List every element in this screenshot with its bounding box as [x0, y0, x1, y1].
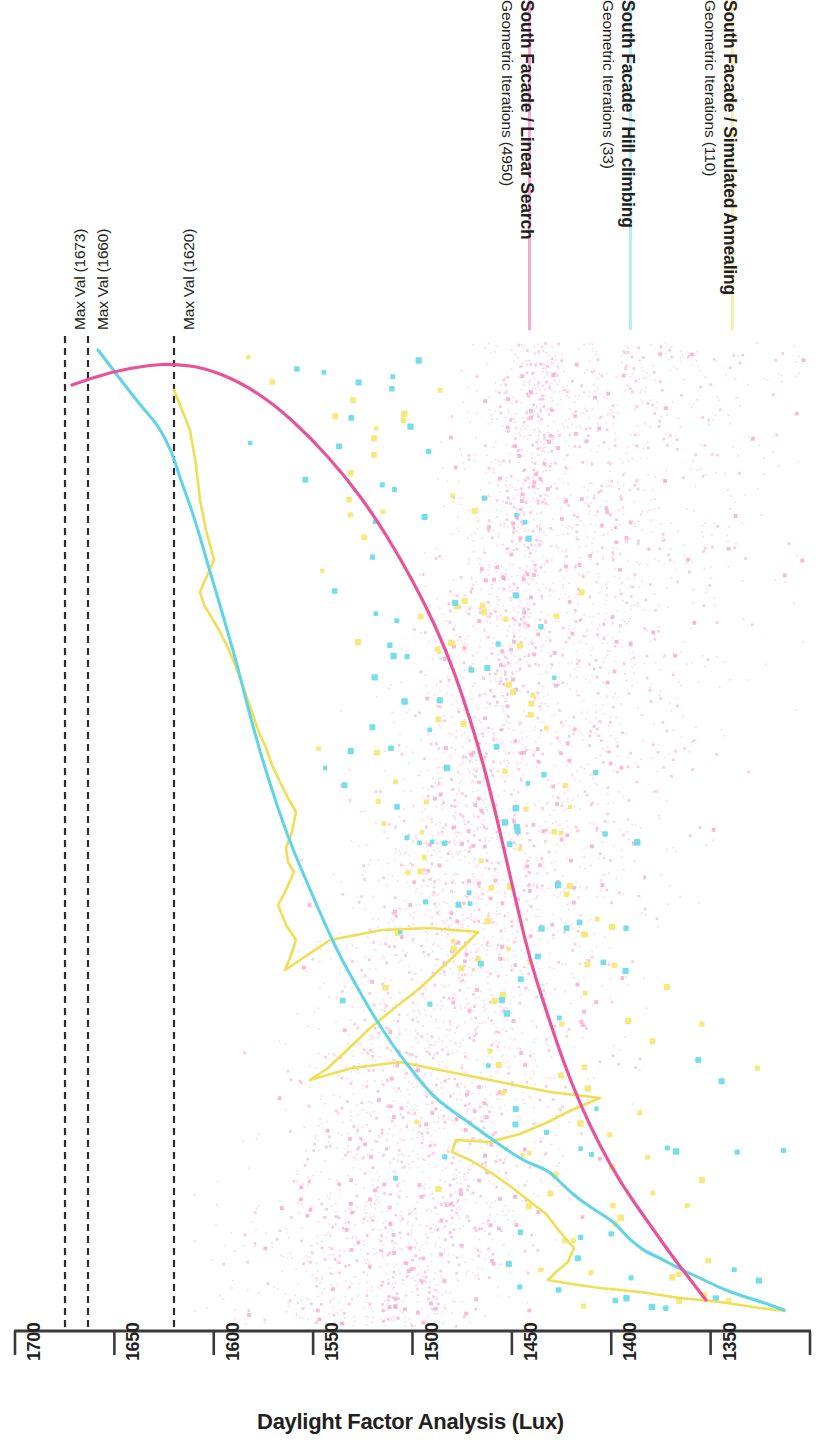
- legend-item-subtitle: Geometric Iterations (4950): [498, 0, 516, 330]
- legend-text: South Facade / Simulated AnnealingGeomet…: [701, 0, 740, 330]
- legend-text: South Facade / Linear SearchGeometric It…: [498, 0, 537, 330]
- x-tick-label: 1650: [123, 1323, 144, 1361]
- legend-item-title: South Facade / Hill climbing: [617, 0, 638, 330]
- x-tick-label: 1700: [24, 1323, 45, 1361]
- x-tick-label: 1450: [521, 1323, 542, 1361]
- chart-root: South Facade / Linear SearchGeometric It…: [0, 0, 821, 1455]
- legend-item-title: South Facade / Simulated Annealing: [719, 0, 740, 330]
- x-tick-label: 1600: [223, 1323, 244, 1361]
- x-axis-title: Daylight Factor Analysis (Lux): [0, 1409, 821, 1435]
- legend-text: South Facade / Hill climbingGeometric It…: [599, 0, 638, 330]
- max-value-lines: [65, 336, 174, 1331]
- legend-item-subtitle: Geometric Iterations (110): [701, 0, 719, 330]
- max-value-label: Max Val (1673): [71, 229, 89, 330]
- legend-item-title: South Facade / Linear Search: [516, 0, 537, 330]
- trend-lines: [72, 350, 785, 1311]
- legend-item-subtitle: Geometric Iterations (33): [599, 0, 617, 330]
- max-value-label: Max Val (1620): [180, 229, 198, 330]
- x-tick-label: 1550: [322, 1323, 343, 1361]
- legend: South Facade / Linear SearchGeometric It…: [0, 0, 821, 336]
- x-tick-label: 1400: [620, 1323, 641, 1361]
- x-tick-label: 1500: [422, 1323, 443, 1361]
- max-value-label: Max Val (1660): [94, 229, 112, 330]
- x-tick-label: 1350: [720, 1323, 741, 1361]
- scatter-simulated-annealing: [246, 355, 760, 1309]
